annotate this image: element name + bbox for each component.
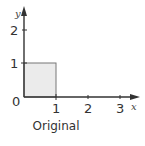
unit-square	[24, 63, 56, 97]
x-tick-label-3: 3	[116, 101, 124, 116]
y-tick-label-1: 1	[10, 56, 18, 71]
figure-caption: Original	[0, 119, 112, 133]
y-tick-label-2: 2	[10, 23, 18, 38]
y-axis-label: y	[14, 8, 21, 19]
x-tick-label-1: 1	[52, 101, 60, 116]
x-axis-label: x	[131, 101, 137, 112]
origin-label: 0	[12, 94, 20, 109]
x-axis-arrow-icon	[130, 94, 140, 100]
y-axis-arrow-icon	[21, 6, 27, 16]
x-tick-label-2: 2	[84, 101, 92, 116]
